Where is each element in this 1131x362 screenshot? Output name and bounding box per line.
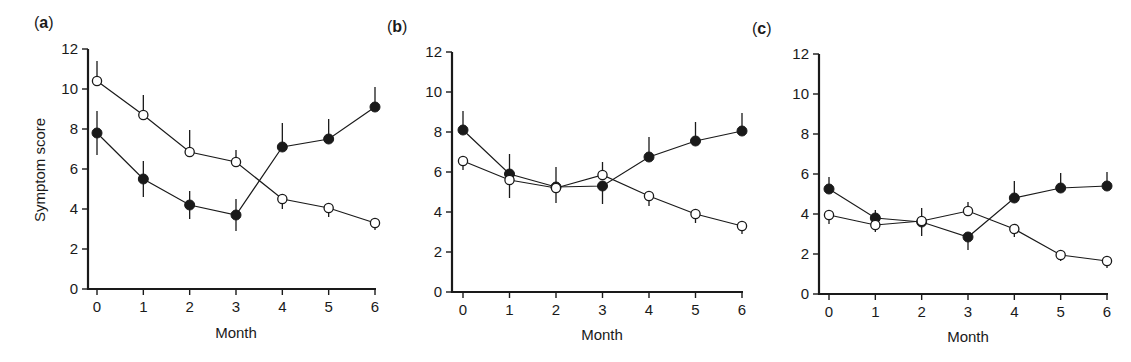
- y-tick-label: 12: [61, 40, 78, 57]
- open-circle-marker: [458, 156, 467, 165]
- x-tick-label: 0: [93, 298, 101, 315]
- open-circle-marker: [1010, 224, 1019, 233]
- x-axis-title: Month: [947, 328, 989, 345]
- y-tick-label: 2: [434, 243, 442, 260]
- y-tick-label: 8: [70, 120, 78, 137]
- y-tick-label: 0: [70, 280, 78, 297]
- x-tick-label: 5: [691, 301, 699, 318]
- x-tick-label: 4: [1010, 303, 1018, 320]
- open-circle-marker: [185, 147, 194, 156]
- x-axis-title: Month: [581, 326, 623, 343]
- panel-label-b: (b): [387, 18, 407, 35]
- filled-markers: [458, 125, 747, 192]
- filled-circle-marker: [598, 181, 608, 191]
- x-tick-label: 6: [738, 301, 746, 318]
- panel-a: (a) Symptom score Month 0246810120123456: [31, 14, 380, 341]
- filled-circle-marker: [1102, 181, 1112, 191]
- filled-circle-marker: [458, 125, 468, 135]
- filled-circle-marker: [644, 152, 654, 162]
- x-tick-label: 2: [185, 298, 193, 315]
- open-circle-marker: [505, 175, 514, 184]
- filled-circle-marker: [1056, 183, 1066, 193]
- filled-circle-marker: [963, 232, 973, 242]
- open-circle-marker: [551, 183, 560, 192]
- y-tick-label: 12: [425, 43, 442, 60]
- open-circle-marker: [139, 110, 148, 119]
- y-tick-label: 8: [434, 123, 442, 140]
- y-tick-label: 4: [801, 205, 809, 222]
- x-tick-label: 5: [324, 298, 332, 315]
- filled-circle-marker: [231, 210, 241, 220]
- panel-label-a: (a): [34, 14, 54, 31]
- filled-circle-marker: [737, 126, 747, 136]
- plot-area-b: 0246810120123456: [425, 43, 747, 318]
- x-tick-label: 3: [598, 301, 606, 318]
- x-tick-label: 4: [278, 298, 286, 315]
- y-tick-label: 6: [801, 165, 809, 182]
- filled-circle-marker: [185, 200, 195, 210]
- x-tick-label: 1: [139, 298, 147, 315]
- x-tick-label: 6: [371, 298, 379, 315]
- y-tick-label: 12: [792, 45, 809, 62]
- x-tick-label: 4: [645, 301, 653, 318]
- y-axis-title: Symptom score: [31, 118, 48, 222]
- y-tick-label: 10: [61, 80, 78, 97]
- filled-circle-marker: [138, 174, 148, 184]
- open-circle-marker: [963, 206, 972, 215]
- chart-canvas: (a) Symptom score Month 0246810120123456…: [0, 0, 1131, 362]
- y-tick-label: 2: [70, 240, 78, 257]
- filled-circle-marker: [370, 102, 380, 112]
- open-circle-marker: [598, 170, 607, 179]
- filled-circle-marker: [824, 184, 834, 194]
- open-circle-marker: [644, 191, 653, 200]
- panel-c: (c) Month 0246810120123456: [752, 20, 1112, 345]
- x-tick-label: 1: [871, 303, 879, 320]
- y-tick-label: 4: [70, 200, 78, 217]
- x-tick-label: 6: [1103, 303, 1111, 320]
- open-circle-marker: [1056, 250, 1065, 259]
- figure: (a) Symptom score Month 0246810120123456…: [0, 0, 1131, 362]
- panel-b: (b) Month 0246810120123456: [387, 18, 747, 343]
- open-circle-marker: [278, 194, 287, 203]
- plot-area-a: 0246810120123456: [61, 40, 380, 315]
- open-circle-marker: [324, 203, 333, 212]
- y-tick-label: 2: [801, 245, 809, 262]
- panel-label-c: (c): [752, 20, 772, 37]
- x-axis-title: Month: [215, 324, 257, 341]
- open-circle-marker: [691, 209, 700, 218]
- x-tick-label: 2: [917, 303, 925, 320]
- open-circle-marker: [1102, 256, 1111, 265]
- open-circle-marker: [737, 221, 746, 230]
- filled-circle-marker: [92, 128, 102, 138]
- filled-circle-marker: [691, 136, 701, 146]
- open-circle-marker: [824, 210, 833, 219]
- y-tick-label: 0: [801, 285, 809, 302]
- open-circle-marker: [92, 76, 101, 85]
- x-tick-label: 2: [552, 301, 560, 318]
- x-tick-label: 1: [505, 301, 513, 318]
- x-tick-label: 5: [1056, 303, 1064, 320]
- y-tick-label: 10: [425, 83, 442, 100]
- filled-circle-marker: [277, 142, 287, 152]
- y-tick-label: 0: [434, 283, 442, 300]
- open-circle-marker: [370, 218, 379, 227]
- x-tick-label: 3: [232, 298, 240, 315]
- y-tick-label: 4: [434, 203, 442, 220]
- plot-area-c: 0246810120123456: [792, 45, 1112, 320]
- filled-circle-marker: [1009, 193, 1019, 203]
- filled-circle-marker: [324, 134, 334, 144]
- open-circle-marker: [231, 157, 240, 166]
- open-circle-marker: [917, 216, 926, 225]
- y-tick-label: 8: [801, 125, 809, 142]
- x-tick-label: 0: [459, 301, 467, 318]
- x-tick-label: 3: [964, 303, 972, 320]
- x-tick-label: 0: [825, 303, 833, 320]
- y-tick-label: 6: [70, 160, 78, 177]
- open-circle-marker: [871, 220, 880, 229]
- y-tick-label: 10: [792, 85, 809, 102]
- y-tick-label: 6: [434, 163, 442, 180]
